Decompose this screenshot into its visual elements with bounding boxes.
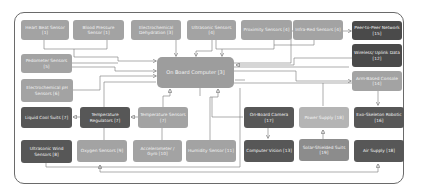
node-electrochemical-ph-sensors: Electrochemical pH Sensors [6] bbox=[21, 79, 73, 102]
node-exo-skeleton-robotic: Exo-Skeleton Robotic [16] bbox=[354, 107, 404, 128]
node-blood-pressure-sensor: Blood Pressure Sensor [1] bbox=[73, 20, 124, 40]
node-solar-shielded-suits: Solar-Shielded Suits [19] bbox=[299, 139, 349, 161]
node-electrochemical-dehydration: Electrochemical Dehydration [3] bbox=[131, 20, 181, 40]
node-power-supply: Power Supply [18] bbox=[299, 107, 349, 128]
node-heart-beat-sensor: Heart Beat Sensor [1] bbox=[21, 20, 69, 40]
node-accelerometer-gyro: Accelerometer / Gyro [10] bbox=[133, 140, 182, 162]
node-oxygen-sensors: Oxygen Sensors [9] bbox=[77, 140, 127, 162]
node-on-board-computer: On Board Computer [3] bbox=[157, 57, 234, 88]
node-peer-to-peer-network: Peer-to-Peer Network [15] bbox=[352, 21, 402, 40]
node-humidity-sensor: Humidity Sensor [11] bbox=[186, 140, 236, 162]
node-computer-vision: Computer Vision [13] bbox=[244, 140, 294, 162]
node-ultrasonic-wind-sensors: Ultrasonic Wind Sensors [8] bbox=[21, 140, 72, 163]
node-ultrasonic-sensors: Ultrasonic Sensors [4] bbox=[187, 20, 236, 40]
node-liquid-cool-suits: Liquid Cool Suits [7] bbox=[21, 107, 72, 128]
node-pedometer-sensors: Pedometer Sensors [5] bbox=[21, 54, 72, 73]
node-on-board-camera: On-Board Camera [17] bbox=[244, 107, 294, 128]
node-air-supply: Air Supply [18] bbox=[354, 140, 404, 162]
node-infra-red-sensors: Infra-Red Sensors [4] bbox=[293, 20, 343, 40]
node-arm-based-console: Arm-Based Console [14] bbox=[352, 71, 402, 91]
node-proximity-sensors: Proximity Sensors [4] bbox=[241, 20, 292, 40]
node-temperature-regulators: Temperature Regulators [7] bbox=[80, 107, 130, 128]
node-temperature-sensors: Temperature Sensors [7] bbox=[138, 107, 188, 128]
node-wireless-uplink-data: Wireless/ Uplink Data [12] bbox=[352, 44, 402, 67]
